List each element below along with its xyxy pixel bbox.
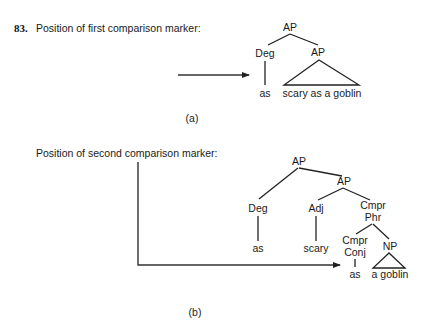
part-b-cmprphr-node-line1: Cmpr [360,199,386,211]
part-b-caption: Position of second comparison marker: [36,147,218,159]
branch [290,34,318,45]
part-a-caption: Position of first comparison marker: [36,22,201,34]
part-b-cmprconj-node-line2: Conj [344,246,366,258]
part-a: 83. Position of first comparison marker:… [14,21,362,124]
example-number: 83. [14,22,28,34]
part-b-np-leaf: a goblin [372,268,409,280]
branch [268,34,290,45]
part-b-ap-node: AP [337,175,351,187]
branch [318,188,343,200]
part-b-cmprconj-node-line1: Cmpr [342,234,368,246]
syntax-tree-figure: 83. Position of first comparison marker:… [0,0,432,324]
figure-svg: 83. Position of first comparison marker:… [0,0,432,324]
part-a-ap-node: AP [311,46,325,58]
part-b-deg-leaf: as [252,242,263,254]
part-a-label: (a) [186,112,199,124]
part-a-deg-node: Deg [255,47,274,59]
branch [259,168,298,199]
part-b-adj-node: Adj [308,202,323,214]
part-b-adj-leaf: scary [303,242,329,254]
part-b-cmprphr-node-line2: Phr [365,211,382,223]
part-b-label: (b) [189,306,202,318]
part-a-root-ap: AP [283,21,297,33]
branch [299,168,342,176]
part-b-root-ap: AP [292,155,306,167]
part-b: Position of second comparison marker: AP… [36,147,409,318]
part-b-cmprconj-leaf: as [349,268,360,280]
part-a-ap-leaf: scary as a goblin [283,87,362,99]
branch [373,224,389,239]
triangle-icon [284,60,359,85]
part-b-deg-node: Deg [248,202,267,214]
triangle-icon [373,253,405,268]
branch [356,224,372,234]
part-a-deg-leaf: as [259,87,270,99]
part-b-np-node: NP [383,240,398,252]
